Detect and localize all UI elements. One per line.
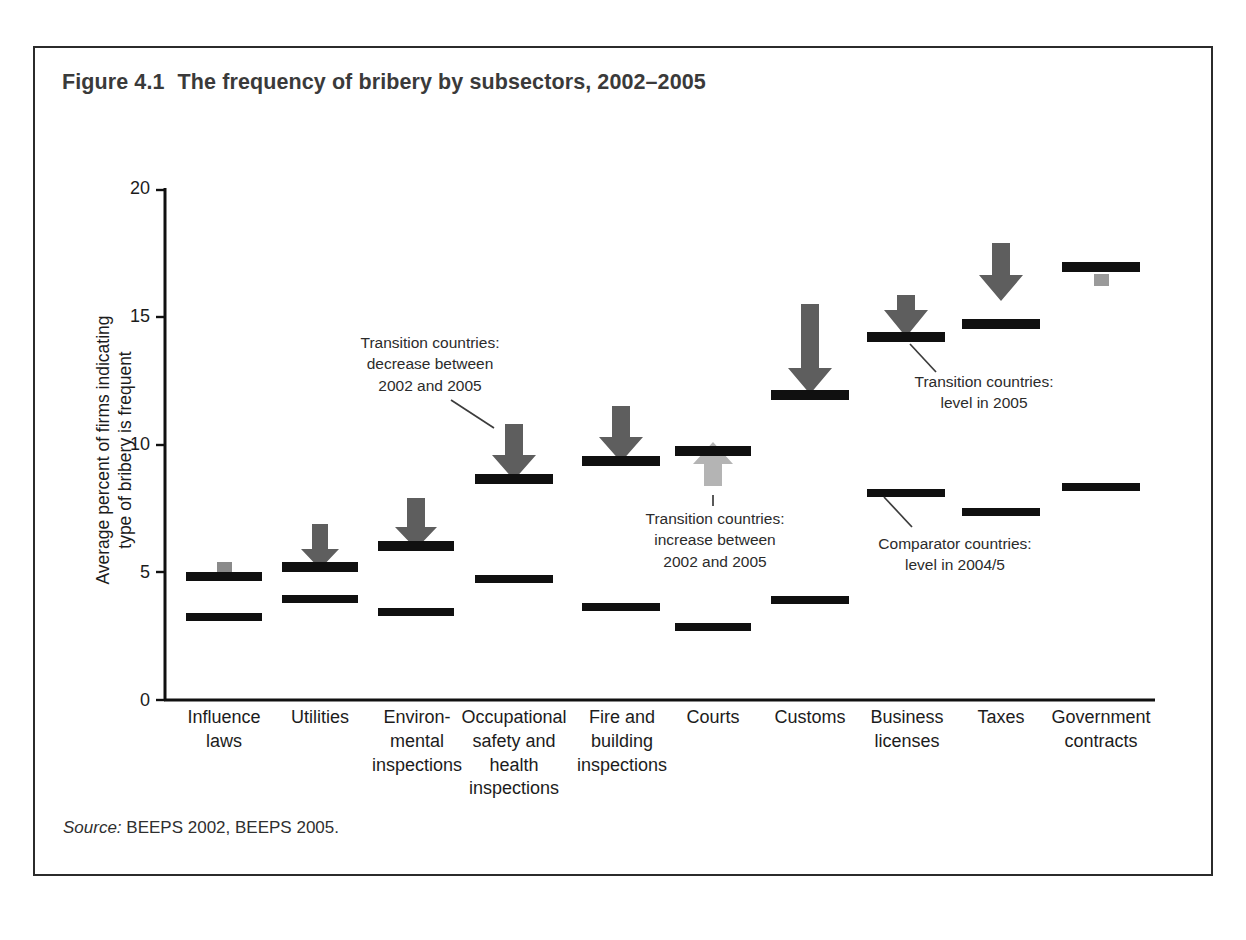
y-tick-label-15: 15 [106,306,150,327]
annotation-comparator-level: Comparator countries: level in 2004/5 [850,533,1060,576]
figure-number: Figure 4.1 [62,70,165,94]
annotation-line: Transition countries: [884,371,1084,392]
annotation-line: Transition countries: [615,508,815,529]
source-note: Source: BEEPS 2002, BEEPS 2005. [63,818,339,838]
source-label: Source: [63,818,122,837]
annotation-line: Comparator countries: [850,533,1060,554]
y-tick-label-10: 10 [106,434,150,455]
x-label-line: contracts [1031,730,1171,754]
x-label-line: licenses [848,730,966,754]
x-label-line: Government [1031,706,1171,730]
x-label-line: laws [163,730,285,754]
x-category-label-government-contracts: Government contracts [1031,706,1171,754]
page-title: Figure 4.1The frequency of bribery by su… [62,70,706,95]
x-label-line: inspections [558,754,686,778]
annotation-line: decrease between [330,353,530,374]
annotation-decrease: Transition countries: decrease between 2… [330,332,530,396]
x-label-line: inspections [446,777,582,801]
annotation-line: level in 2005 [884,392,1084,413]
x-label-line: building [558,730,686,754]
annotation-increase: Transition countries: increase between 2… [615,508,815,572]
annotation-line: level in 2004/5 [850,554,1060,575]
annotation-line: 2002 and 2005 [330,375,530,396]
annotation-line: increase between [615,529,815,550]
y-tick-label-5: 5 [106,562,150,583]
y-tick-label-0: 0 [106,690,150,711]
annotation-level-2005: Transition countries: level in 2005 [884,371,1084,414]
source-text: BEEPS 2002, BEEPS 2005. [126,818,339,837]
annotation-line: 2002 and 2005 [615,551,815,572]
y-tick-label-20: 20 [106,178,150,199]
figure-title-text: The frequency of bribery by subsectors, … [178,70,706,94]
annotation-line: Transition countries: [330,332,530,353]
